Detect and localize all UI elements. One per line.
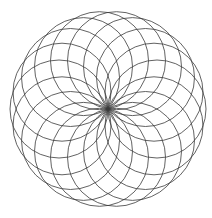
figure-canvas [0, 0, 212, 218]
rosette-figure [0, 0, 212, 218]
